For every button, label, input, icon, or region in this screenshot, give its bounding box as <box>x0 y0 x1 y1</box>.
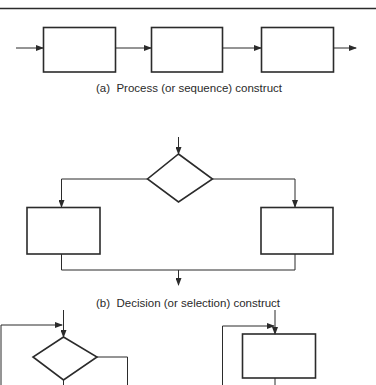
right-branch-box <box>261 208 333 255</box>
left-branch-line <box>62 179 148 207</box>
process-box-1 <box>44 28 116 73</box>
process-box-2 <box>152 28 223 73</box>
left-branch-box <box>27 208 100 255</box>
flowchart-constructs-diagram: (a) Process (or sequence) construct (b) … <box>0 0 376 385</box>
loop-process-box <box>243 334 316 378</box>
repetition-constructs <box>1 310 316 385</box>
caption-sequence: (a) Process (or sequence) construct <box>96 82 283 94</box>
loop-back-line-left <box>1 325 62 385</box>
process-box-3 <box>262 28 334 73</box>
loop-exit-line-left <box>97 357 128 385</box>
merge-line <box>62 254 296 270</box>
right-branch-line <box>213 179 296 207</box>
caption-selection: (b) Decision (or selection) construct <box>96 297 281 309</box>
selection-construct <box>27 137 333 285</box>
decision-diamond <box>148 154 213 202</box>
loop-decision-diamond <box>33 337 97 380</box>
loop-back-line-right <box>223 326 275 385</box>
sequence-construct <box>16 28 356 73</box>
